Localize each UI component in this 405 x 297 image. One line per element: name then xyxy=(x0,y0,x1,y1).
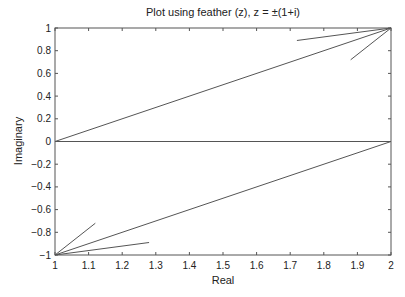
y-tick-label: −0.8 xyxy=(31,227,51,238)
y-tick-label: −0.2 xyxy=(31,159,51,170)
y-tick-label: 0.6 xyxy=(37,68,51,79)
y-tick-label: 0.8 xyxy=(37,45,51,56)
y-tick-label: 1 xyxy=(45,23,51,34)
x-tick-label: 1.1 xyxy=(82,260,96,271)
feather-plot: 11.11.21.31.41.51.61.71.81.92−1−0.8−0.6−… xyxy=(0,0,405,297)
y-tick-label: 0.2 xyxy=(37,113,51,124)
feather-line xyxy=(55,142,391,256)
x-tick-label: 1.8 xyxy=(317,260,331,271)
y-tick-label: −0.4 xyxy=(31,181,51,192)
y-tick-label: −1 xyxy=(40,250,52,261)
x-tick-label: 1.3 xyxy=(149,260,163,271)
y-tick-label: 0 xyxy=(45,136,51,147)
y-tick-label: 0.4 xyxy=(37,91,51,102)
x-tick-label: 2 xyxy=(388,260,394,271)
x-tick-label: 1.7 xyxy=(283,260,297,271)
x-tick-label: 1 xyxy=(52,260,58,271)
feather-line xyxy=(55,28,391,142)
x-tick-label: 1.6 xyxy=(250,260,264,271)
y-tick-label: −0.6 xyxy=(31,204,51,215)
x-tick-label: 1.2 xyxy=(115,260,129,271)
x-tick-label: 1.5 xyxy=(216,260,230,271)
x-tick-label: 1.9 xyxy=(350,260,364,271)
x-tick-label: 1.4 xyxy=(182,260,196,271)
